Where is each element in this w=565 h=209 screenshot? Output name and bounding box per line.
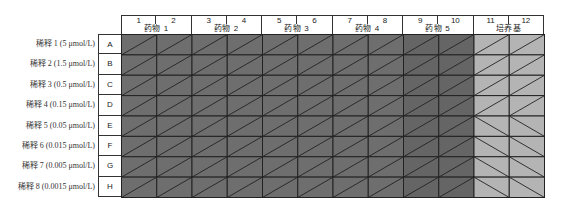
row-letter-C: C [98, 74, 121, 95]
row-letter-D: D [98, 94, 121, 115]
plate-layout-diagram: 123456789101112 药物 1药物 2药物 3药物 4药物 5培养基 … [0, 0, 565, 209]
row-dilution-label: 稀释 3 (0.5 μmol/L) [0, 75, 95, 95]
row-letter-H: H [98, 176, 121, 197]
row-letter-B: B [98, 53, 121, 74]
row-dilution-label: 稀释 6 (0.015 μmol/L) [0, 136, 95, 156]
row-letter-A: A [98, 34, 121, 54]
row-letter-F: F [98, 135, 121, 156]
row-letter-E: E [98, 115, 121, 136]
row-dilution-label: 稀释 1 (5 μmol/L) [0, 34, 95, 54]
row-dilution-label: 稀释 7 (0.005 μmol/L) [0, 156, 95, 176]
row-dilution-label: 稀释 8 (0.0015 μmol/L) [0, 177, 95, 197]
row-dilution-label: 稀释 5 (0.05 μmol/L) [0, 116, 95, 136]
row-letter-G: G [98, 155, 121, 176]
row-dilution-label: 稀释 2 (1.5 μmol/L) [0, 54, 95, 74]
row-dilution-label: 稀释 4 (0.15 μmol/L) [0, 95, 95, 115]
well-grid [121, 34, 545, 198]
